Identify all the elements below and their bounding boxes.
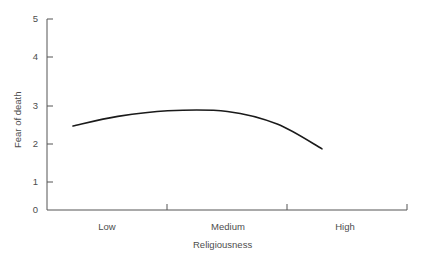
x-axis-ticks — [167, 204, 407, 210]
y-tick-label-2: 2 — [24, 139, 38, 149]
y-tick-label-4: 4 — [24, 52, 38, 62]
x-tick-label-medium: Medium — [198, 222, 258, 232]
chart-figure: 5 4 3 2 1 0 Low Medium High Religiousnes… — [0, 0, 421, 265]
y-tick-label-3: 3 — [24, 101, 38, 111]
x-axis-title: Religiousness — [193, 240, 252, 250]
y-tick-label-0: 0 — [24, 205, 38, 215]
x-tick-label-low: Low — [83, 222, 131, 232]
data-series-line — [73, 110, 322, 149]
y-tick-label-1: 1 — [24, 177, 38, 187]
y-axis-ticks — [47, 19, 53, 182]
y-tick-label-5: 5 — [24, 14, 38, 24]
x-tick-label-high: High — [322, 222, 368, 232]
y-axis-title: Fear of death — [13, 91, 23, 148]
